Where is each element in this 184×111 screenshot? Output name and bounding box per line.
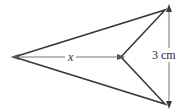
geometry-figure: x 3 cm [0, 0, 184, 111]
dimension-label-3cm: 3 cm [150, 48, 178, 62]
dimension-label-x: x [65, 50, 76, 64]
